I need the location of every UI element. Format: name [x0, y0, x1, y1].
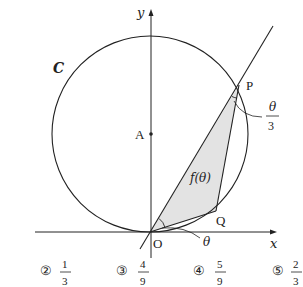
y-axis-label: y	[136, 5, 145, 20]
choice-numerator: 2	[293, 258, 299, 270]
choice-mark: ②	[40, 263, 52, 278]
circle-label: C	[53, 60, 64, 76]
choice-2: ② 1 3	[40, 258, 71, 287]
angle-p-denominator: 3	[268, 119, 274, 133]
x-axis-arrow-icon	[270, 230, 277, 235]
choice-mark: ④	[193, 263, 205, 278]
choice-denominator: 3	[293, 275, 299, 287]
center-label: A	[135, 127, 145, 142]
angle-leader-o	[162, 228, 200, 238]
choice-denominator: 9	[217, 275, 223, 287]
geometry-diagram: y x O C A P Q f(θ) θ θ 3 ② 1 3 ③ 4 9 ④ 5…	[0, 0, 303, 287]
choice-numerator: 1	[62, 258, 68, 270]
line-op	[140, 26, 273, 249]
choice-4: ④ 5 9	[193, 258, 226, 287]
origin-label: O	[153, 236, 162, 251]
choice-3: ③ 4 9	[116, 258, 149, 287]
angle-leader-p	[234, 101, 262, 117]
choice-mark: ⑤	[272, 263, 284, 278]
choice-denominator: 9	[140, 275, 146, 287]
x-axis-label: x	[270, 236, 278, 251]
point-p-label: P	[246, 78, 253, 93]
point-q-label: Q	[216, 213, 226, 228]
choice-5: ⑤ 2 3	[272, 258, 302, 287]
angle-theta-label: θ	[203, 235, 211, 249]
y-axis-arrow-icon	[149, 9, 154, 16]
choice-denominator: 3	[62, 275, 68, 287]
angle-p-numerator: θ	[269, 100, 277, 114]
choice-numerator: 4	[140, 258, 146, 270]
choice-numerator: 5	[217, 258, 223, 270]
center-a-dot	[149, 132, 153, 136]
region-label: f(θ)	[189, 171, 211, 185]
choice-mark: ③	[116, 263, 128, 278]
